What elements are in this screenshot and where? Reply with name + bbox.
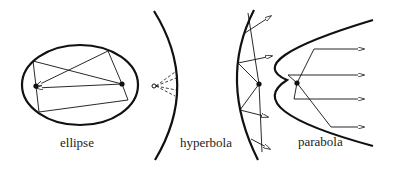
ellipse-rays	[33, 51, 128, 112]
parabola-rays	[288, 49, 364, 127]
ellipse-focus-right	[119, 81, 124, 86]
ellipse-figure: ellipse	[22, 45, 138, 150]
parabola-figure: parabola	[275, 20, 373, 149]
ellipse-focus-left	[33, 83, 38, 88]
hyperbola-focus	[256, 81, 261, 86]
hyperbola-figure: hyperbola	[152, 10, 272, 160]
ellipse-label: ellipse	[60, 135, 94, 150]
parabola-label: parabola	[298, 134, 343, 149]
hyperbola-right-branch	[237, 10, 258, 160]
hyperbola-label: hyperbola	[180, 135, 232, 150]
parabola-focus	[294, 80, 299, 85]
conic-reflection-diagram: ellipse hyperbola	[0, 0, 394, 171]
hyperbola-virtual-focus	[152, 84, 156, 88]
hyperbola-dashed-rays	[156, 72, 176, 96]
